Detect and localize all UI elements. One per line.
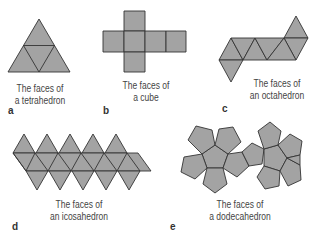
dodecahedron-net (181, 122, 302, 193)
caption-line: The faces of (119, 80, 173, 92)
panel-label-d: d (12, 221, 18, 232)
caption-cube: The faces of a cube (119, 80, 173, 104)
panel-label-b: b (103, 105, 109, 116)
panel-label-e: e (170, 221, 176, 232)
caption-line: an icosahedron (49, 211, 109, 223)
caption-line: an octahedron (249, 90, 305, 102)
panel-label-a: a (8, 105, 14, 116)
caption-icosahedron: The faces of an icosahedron (49, 199, 109, 223)
octahedron-net (219, 16, 308, 82)
caption-octahedron: The faces of an octahedron (249, 78, 305, 102)
caption-line: a tetrahedron (10, 95, 70, 107)
caption-line: a cube (119, 92, 173, 104)
icosahedron-net (13, 134, 151, 190)
caption-line: The faces of (208, 199, 273, 211)
panel-label-c: c (222, 103, 228, 114)
tetrahedron-net (8, 19, 70, 72)
caption-line: a dodecahedron (208, 211, 273, 223)
caption-dodecahedron: The faces of a dodecahedron (208, 199, 273, 223)
caption-tetrahedron: The faces of a tetrahedron (10, 83, 70, 107)
caption-line: The faces of (49, 199, 109, 211)
cube-net (103, 11, 186, 72)
caption-line: The faces of (249, 78, 305, 90)
caption-line: The faces of (10, 83, 70, 95)
